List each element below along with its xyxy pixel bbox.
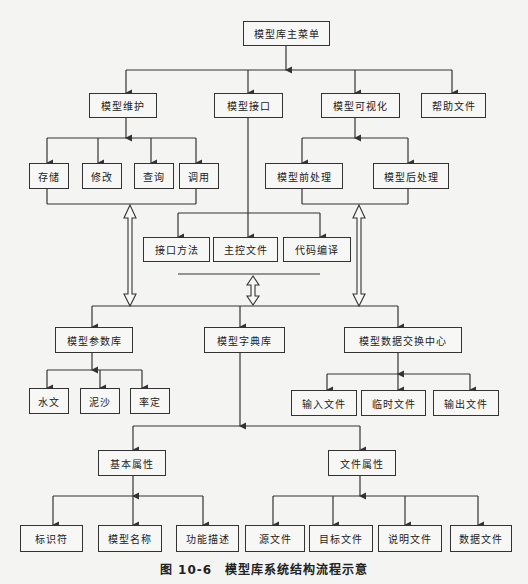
connector-lines: [0, 0, 528, 584]
node-model-maintenance: 模型维护: [89, 93, 157, 118]
node-function-description: 功能描述: [176, 525, 239, 552]
node-data-exchange-center: 模型数据交换中心: [344, 327, 462, 353]
node-master-file: 主控文件: [213, 237, 278, 262]
node-output-file: 输出文件: [433, 390, 499, 416]
node-model-name: 模型名称: [98, 525, 162, 552]
node-description-file: 说明文件: [378, 525, 442, 552]
node-identifier: 标识符: [20, 525, 83, 552]
node-model-visualization: 模型可视化: [321, 93, 400, 118]
node-file-attributes: 文件属性: [328, 450, 396, 476]
node-postprocessing: 模型后处理: [373, 163, 449, 189]
node-target-file: 目标文件: [309, 525, 373, 552]
figure-caption: 图 10-6 模型库系统结构流程示意: [0, 560, 528, 577]
node-model-interface: 模型接口: [214, 93, 283, 118]
node-store: 存储: [29, 163, 69, 189]
node-query: 查询: [134, 163, 174, 189]
node-help-files: 帮助文件: [421, 93, 486, 118]
node-modify: 修改: [82, 163, 122, 189]
node-hydrology: 水文: [29, 388, 69, 414]
node-code-compile: 代码编译: [283, 237, 351, 262]
node-interface-method: 接口方法: [143, 237, 210, 262]
node-call: 调用: [179, 163, 219, 189]
node-input-file: 输入文件: [291, 390, 357, 416]
node-calibration: 率定: [130, 388, 170, 414]
node-temp-file: 临时文件: [361, 390, 426, 416]
node-root: 模型库主菜单: [243, 21, 330, 46]
node-sediment: 泥沙: [80, 388, 120, 414]
node-preprocessing: 模型前处理: [265, 163, 343, 189]
node-source-file: 源文件: [245, 525, 305, 552]
node-data-file: 数据文件: [450, 525, 512, 552]
node-param-library: 模型参数库: [55, 327, 133, 353]
node-dictionary-library: 模型字典库: [204, 327, 285, 353]
node-basic-attributes: 基本属性: [98, 450, 166, 476]
